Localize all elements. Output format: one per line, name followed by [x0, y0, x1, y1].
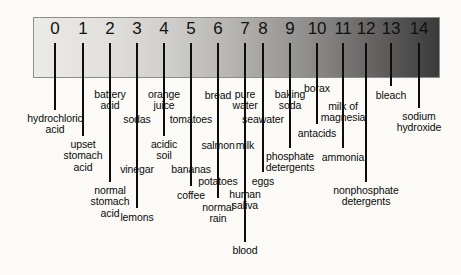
ph-tick-7: 7 [240, 20, 249, 37]
substance-label: phosphate detergents [266, 151, 315, 174]
leader-line [54, 43, 56, 110]
substance-label: acidic soil [151, 139, 177, 162]
ph-tick-11: 11 [334, 20, 351, 37]
substance-label: coffee [177, 190, 205, 201]
substance-label: orange juice [148, 89, 180, 112]
ph-tick-0: 0 [50, 20, 59, 37]
substance-label: potatoes [198, 176, 237, 187]
ph-scale-diagram: 01234567891011121314 hydrochloric acidup… [0, 0, 461, 275]
substance-label: blood [232, 245, 257, 256]
substance-label: pure water [232, 89, 257, 112]
leader-line [262, 43, 264, 172]
ph-tick-9: 9 [285, 20, 294, 37]
substance-label: human saliva [229, 189, 261, 212]
substance-label: bananas [171, 164, 211, 175]
ph-gradient-bar [33, 17, 440, 78]
ph-tick-1: 1 [78, 20, 87, 37]
substance-label: tomatoes [170, 114, 212, 125]
substance-label: nonphosphate detergents [333, 185, 398, 208]
substance-label: lemons [120, 212, 153, 223]
substance-label: sodium hydroxide [397, 111, 442, 134]
leader-line [136, 43, 138, 208]
substance-label: antacids [298, 128, 336, 139]
ph-tick-6: 6 [213, 20, 222, 37]
ph-tick-2: 2 [105, 20, 114, 37]
substance-label: milk [236, 140, 254, 151]
substance-label: bread [205, 90, 231, 101]
substance-label: seawater [242, 114, 284, 125]
substance-label: battery acid [94, 89, 125, 112]
substance-label: sodas [123, 114, 151, 125]
leader-line [418, 43, 420, 108]
substance-label: ammonia [322, 152, 365, 163]
ph-tick-12: 12 [357, 20, 376, 37]
substance-label: salmon [201, 140, 234, 151]
leader-line [390, 43, 392, 86]
ph-tick-8: 8 [258, 20, 267, 37]
substance-label: bleach [376, 90, 406, 101]
leader-line [109, 43, 111, 182]
ph-tick-14: 14 [410, 20, 429, 37]
substance-label: baking soda [275, 89, 305, 112]
substance-label: milk of magnesia [321, 101, 366, 124]
substance-label: upset stomach acid [64, 139, 103, 173]
leader-line [342, 43, 344, 148]
ph-tick-13: 13 [382, 20, 401, 37]
substance-label: hydrochloric acid [27, 113, 82, 136]
ph-tick-10: 10 [308, 20, 327, 37]
substance-label: vinegar [120, 164, 154, 175]
substance-label: eggs [252, 176, 274, 187]
substance-label: borax [304, 83, 330, 94]
ph-tick-4: 4 [159, 20, 168, 37]
ph-tick-3: 3 [132, 20, 141, 37]
ph-tick-5: 5 [186, 20, 195, 37]
